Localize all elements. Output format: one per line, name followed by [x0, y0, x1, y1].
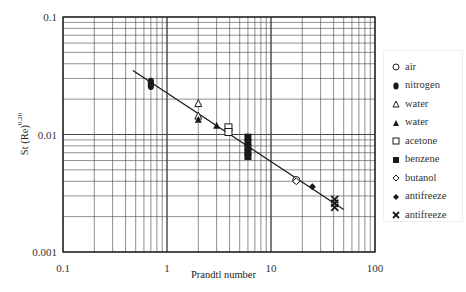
- legend-label: antifreeze: [405, 190, 446, 201]
- x-tick-label: 1: [164, 262, 170, 274]
- legend-label: air: [405, 61, 416, 72]
- circle-open-icon: [390, 60, 402, 72]
- data-points: [148, 78, 338, 211]
- data-point-antifreeze: [309, 183, 316, 190]
- tick-labels: 0.11101000.10.010.001: [32, 11, 384, 274]
- legend-item: water: [390, 96, 428, 110]
- legend-label: nitrogen: [405, 79, 440, 90]
- legend: airnitrogenwaterwateracetonebenzenebutan…: [383, 50, 463, 222]
- data-point-water: [213, 122, 220, 129]
- diamond-filled-icon: [390, 190, 402, 202]
- y-tick-label: 0.001: [32, 246, 57, 258]
- y-axis-title-exponent: 0.20: [16, 112, 24, 125]
- x-axis-title: Prandtl number: [191, 269, 257, 280]
- legend-item: acetone: [390, 133, 437, 147]
- legend-item: air: [390, 59, 416, 73]
- square-open-icon: [390, 134, 402, 146]
- y-axis-title-base: St (Re): [19, 125, 31, 156]
- x-tick-label: 10: [266, 262, 278, 274]
- y-tick-label: 0.01: [38, 129, 57, 141]
- triangle-filled-icon: [390, 116, 402, 128]
- legend-label: water: [405, 116, 428, 127]
- legend-label: antifreeze: [405, 209, 446, 220]
- legend-item: benzene: [390, 152, 439, 166]
- legend-item: butanol: [390, 170, 437, 184]
- x-tick-label: 0.1: [56, 262, 70, 274]
- legend-item: antifreeze: [390, 189, 446, 203]
- legend-label: butanol: [405, 172, 437, 183]
- y-axis-title: St (Re)0.20: [16, 112, 31, 155]
- x-cross-icon: [390, 208, 402, 220]
- data-point-acetone: [225, 129, 232, 136]
- data-point-antifreeze: [331, 204, 338, 211]
- diamond-open-icon: [390, 171, 402, 183]
- data-point-water: [195, 100, 202, 107]
- data-point-nitrogen: [148, 82, 154, 90]
- x-tick-label: 100: [367, 262, 384, 274]
- y-tick-label: 0.1: [43, 11, 57, 23]
- svg-text:St (Re)0.20: St (Re)0.20: [16, 112, 31, 155]
- legend-item: antifreeze: [390, 207, 446, 221]
- data-point-benzene: [244, 153, 251, 160]
- legend-item: water: [390, 115, 428, 129]
- triangle-open-icon: [390, 97, 402, 109]
- legend-label: acetone: [405, 135, 437, 146]
- legend-label: water: [405, 98, 428, 109]
- circle-filled-icon: [390, 79, 402, 91]
- legend-item: nitrogen: [390, 78, 440, 92]
- square-filled-icon: [390, 153, 402, 165]
- grid-lines: [63, 17, 375, 252]
- legend-label: benzene: [405, 153, 439, 164]
